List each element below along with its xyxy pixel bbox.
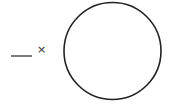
circle-shape (64, 3, 161, 100)
x-label: × (37, 44, 46, 56)
diagram-canvas (0, 0, 192, 111)
